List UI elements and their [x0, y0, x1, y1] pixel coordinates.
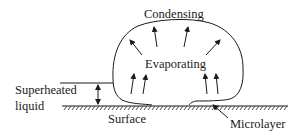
surface-label: Surface: [108, 113, 146, 126]
condensing-label: Condensing: [144, 8, 204, 21]
microlayer-pointer: [213, 105, 228, 118]
condensing-arrows: [130, 27, 220, 55]
microlayer-label: Microlayer: [230, 118, 286, 131]
evaporating-arrows: [131, 74, 218, 94]
evaporating-label: Evaporating: [145, 58, 206, 71]
superheated-label: Superheated: [15, 84, 77, 97]
bubble-boiling-diagram: Condensing Evaporating Superheated liqui…: [0, 0, 304, 138]
surface-hatching: [64, 106, 287, 110]
liquid-label: liquid: [15, 100, 44, 113]
